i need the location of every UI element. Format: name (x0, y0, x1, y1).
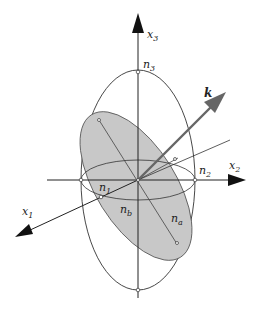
point-center (137, 179, 140, 182)
label-k: k (204, 86, 212, 100)
point-na-bottom (176, 242, 179, 245)
label-n2: n2 (199, 164, 211, 179)
point-n1 (99, 195, 103, 199)
point-bottom (136, 288, 140, 292)
point-n2 (193, 178, 197, 182)
point-left (79, 178, 83, 182)
label-x1: x1 (22, 205, 33, 220)
index-ellipsoid-diagram: x3 n3 k x2 n2 n1 x1 nb na (0, 0, 261, 313)
label-n3: n3 (143, 58, 155, 73)
label-x2: x2 (229, 159, 240, 174)
label-x3: x3 (147, 28, 158, 43)
point-na (174, 158, 177, 161)
x1-arrowhead-icon (15, 224, 33, 237)
x2-arrowhead-icon (228, 174, 246, 186)
point-nb-top (98, 119, 101, 122)
x3-arrowhead-icon (132, 13, 144, 33)
point-n3 (136, 70, 140, 74)
